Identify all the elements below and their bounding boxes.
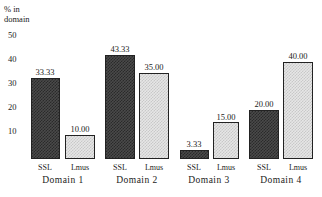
bar-lmus-domain-2 [139, 73, 169, 159]
bar-lmus-domain-4 [283, 62, 313, 159]
y-axis-label-line1: % in [4, 4, 30, 14]
y-tick-50: 50 [8, 30, 24, 40]
bar-value: 35.00 [134, 62, 174, 72]
bar-value: 3.33 [174, 139, 214, 149]
y-tick-40: 40 [8, 54, 24, 64]
bar-ssl-domain-1 [31, 78, 60, 159]
bar-value: 40.00 [278, 51, 318, 61]
y-axis-label-line2: domain [4, 14, 30, 24]
bar-label: Lmus [278, 163, 318, 172]
category-label: Domain 2 [102, 175, 172, 185]
bar-value: 20.00 [244, 99, 284, 109]
bar-ssl-domain-4 [249, 110, 279, 159]
y-tick-20: 20 [8, 102, 24, 112]
bar-label: Lmus [206, 163, 246, 172]
category-label: Domain 4 [246, 175, 316, 185]
y-axis-label: % in domain [4, 4, 30, 24]
bar-value: 43.33 [100, 44, 140, 54]
bar-lmus-domain-1 [65, 135, 95, 159]
bar-label: SSL [25, 163, 65, 172]
bar-label: Lmus [134, 163, 174, 172]
category-label: Domain 3 [174, 175, 244, 185]
bar-lmus-domain-3 [213, 122, 239, 159]
bar-ssl-domain-3 [180, 150, 209, 159]
y-tick-30: 30 [8, 78, 24, 88]
bar-value: 33.33 [25, 67, 65, 77]
bar-value: 15.00 [206, 112, 246, 122]
y-tick-10: 10 [8, 126, 24, 136]
bar-value: 10.00 [60, 124, 100, 134]
bar-label: Lmus [60, 163, 100, 172]
bar-ssl-domain-2 [105, 55, 135, 159]
category-label: Domain 1 [28, 175, 98, 185]
